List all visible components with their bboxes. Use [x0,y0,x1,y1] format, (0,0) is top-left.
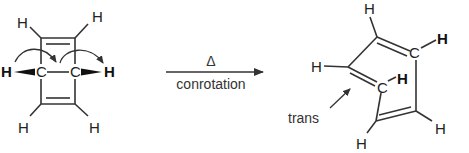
atom-c-right: C [70,63,81,80]
trans-pointer-arrow [330,89,350,108]
curved-arrow-left [15,49,56,62]
bond-bottom-cc [376,111,416,121]
curved-arrow-right [60,50,103,63]
bond-h-bottom-left [367,121,376,133]
bond-h-bottom-right [75,104,88,116]
bond-middle-down [376,93,381,121]
product-molecule: H C H H C H H H trans [288,0,448,152]
bond-h-top [370,17,377,37]
atom-h-middle: H [397,70,408,87]
bond-top-cc [377,37,410,51]
bond-h-bottom-right [416,111,432,121]
heat-symbol: Δ [206,53,215,69]
bond-top-cc-double [377,43,407,56]
reaction-arrow: Δ conrotation [166,53,263,92]
wedge-bond-right [81,69,102,76]
bond-h-top-right [421,40,436,48]
atom-h-bottom-right: H [89,119,100,136]
atom-h-top: H [364,0,375,17]
bond-h-top-left [30,27,41,38]
atom-h-right-bold: H [104,63,115,80]
atom-c-middle: C [377,79,388,96]
reaction-diagram: H H H C C H H H Δ conrotation [0,0,469,153]
bond-h-middle [388,77,396,81]
atom-h-bottom-left: H [18,119,29,136]
bond-h-bottom-left [30,104,41,116]
conrotation-label: conrotation [176,76,245,92]
atom-h-left: H [311,58,322,75]
atom-c-top-right: C [409,44,420,61]
atom-h-top-right: H [92,8,103,25]
bond-h-left [324,66,348,67]
atom-h-top-right: H [437,30,448,47]
atom-h-top-left: H [17,14,28,31]
atom-h-bottom-left: H [356,135,367,152]
wedge-bond-left [14,69,35,76]
atom-h-bottom-right: H [435,120,446,137]
atom-h-left-bold: H [1,63,12,80]
atom-c-left: C [36,63,47,80]
bond-top-left [348,37,377,67]
bond-h-top-right [75,24,88,38]
trans-label: trans [288,110,319,126]
reactant-molecule: H H H C C H H H [1,8,115,136]
